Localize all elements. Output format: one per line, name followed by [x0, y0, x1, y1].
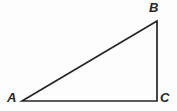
triangle-shape	[22, 21, 157, 101]
triangle-svg	[0, 0, 177, 111]
vertex-label-a: A	[7, 91, 16, 104]
geometry-figure: A B C	[0, 0, 177, 111]
vertex-label-b: B	[149, 1, 158, 14]
vertex-label-c: C	[160, 91, 169, 104]
